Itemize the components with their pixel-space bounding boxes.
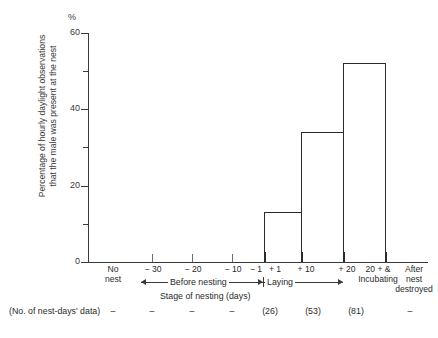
y-tick-label-60: 60 xyxy=(58,28,80,37)
bar-20plus-incubating xyxy=(343,63,386,262)
y-tick-label-40: 40 xyxy=(58,104,80,113)
bar-10-to-20 xyxy=(301,132,344,262)
nest-days-value-plus10: (53) xyxy=(299,306,327,317)
nest-days-row-label: (No. of nest-days' data) xyxy=(9,306,100,317)
y-tick-minor-30 xyxy=(83,147,89,148)
nest-days-value-minus10: – xyxy=(220,306,244,317)
y-axis-title: Percentage of hourly daylight observatio… xyxy=(37,21,59,211)
x-label-minus20: − 20 xyxy=(176,264,210,274)
y-axis-unit-label: % xyxy=(68,13,76,22)
y-tick-40 xyxy=(81,109,89,110)
laying-label: Laying xyxy=(265,276,295,288)
laying-arrow-head-right xyxy=(338,279,343,285)
nest-days-value-no-nest: – xyxy=(101,306,125,317)
before-nesting-label: Before nesting xyxy=(168,276,229,288)
laying-arrow-group: Laying xyxy=(263,276,343,288)
x-tick-minus20 xyxy=(192,254,193,262)
nest-days-value-after: – xyxy=(398,306,422,317)
y-tick-20 xyxy=(81,186,89,187)
nest-days-value-minus30: – xyxy=(140,306,164,317)
x-label-minus30: − 30 xyxy=(136,264,170,274)
before-nesting-arrow-group: Before nesting xyxy=(141,276,263,288)
x-label-plus10: + 10 xyxy=(291,264,321,274)
nest-days-value-minus20: – xyxy=(180,306,204,317)
x-axis-title: Stage of nesting (days) xyxy=(160,291,250,302)
chart-figure: % 60 40 20 0 Percentage of hourly daylig… xyxy=(0,0,438,338)
y-tick-label-0: 0 xyxy=(58,257,80,266)
before-nesting-arrow-head-left xyxy=(141,279,146,285)
y-tick-label-20: 20 xyxy=(58,181,80,190)
x-label-plus1: + 1 xyxy=(263,264,287,274)
y-axis-line xyxy=(88,33,89,263)
nest-days-value-laying: (26) xyxy=(256,306,284,317)
x-tick-after-nest xyxy=(385,252,387,262)
x-tick-plus20 xyxy=(343,252,345,262)
stage-annotation-row: Before nesting Laying xyxy=(0,276,438,292)
x-tick-plus10 xyxy=(301,252,303,262)
y-tick-60 xyxy=(81,33,89,34)
x-tick-plus1 xyxy=(264,252,266,262)
x-axis-line xyxy=(88,262,428,263)
y-tick-minor-50 xyxy=(83,71,89,72)
x-tick-minus30 xyxy=(152,254,153,262)
x-tick-minus10 xyxy=(232,254,233,262)
y-tick-minor-10 xyxy=(83,224,89,225)
nest-days-value-plus20: (81) xyxy=(342,306,370,317)
bar-laying-1-to-10 xyxy=(264,212,302,262)
